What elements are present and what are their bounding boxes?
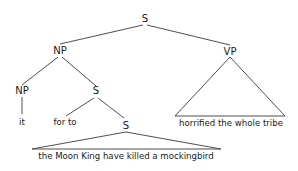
triangle-right-edge [126,132,221,149]
edge-s-s [98,98,124,118]
complement-s-label: S [93,85,99,96]
vp-triangle-right-edge [230,57,285,116]
edge-s-vp [147,25,230,45]
leaf-it: it [19,117,25,127]
inner-np-label: NP [15,85,29,96]
vp-label: VP [224,46,237,57]
edge-s-forto [66,98,94,116]
leaf-vp-phrase: horrified the whole tribe [179,118,283,128]
syntax-tree: S NP NP it S for to S the Moon King have… [0,0,298,171]
embedded-s-label: S [123,120,129,131]
leaf-embedded-clause: the Moon King have killed a mockingbird [38,151,213,161]
vp-triangle-left-edge [175,57,230,116]
edge-np-np [22,57,58,85]
edge-s-np [60,25,143,44]
triangle-left-edge [32,132,126,149]
leaf-for-to: for to [53,117,76,127]
root-s-label: S [142,13,148,24]
edge-np-s [62,57,96,86]
subject-np-label: NP [53,45,67,56]
